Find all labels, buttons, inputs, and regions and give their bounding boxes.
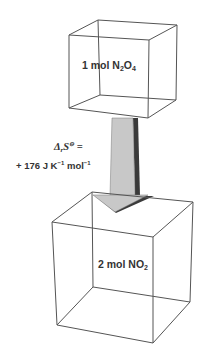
label-text: 2 mol NO — [98, 258, 144, 270]
delta-symbol: Δ — [54, 141, 61, 152]
label-text: O — [124, 59, 132, 71]
value-text: + 176 J K — [16, 160, 57, 171]
unit-text: mol — [64, 160, 84, 171]
down-arrow — [93, 118, 154, 213]
entropy-diagram — [0, 0, 201, 355]
label-text: 1 mol N — [82, 59, 120, 71]
subscript: 4 — [132, 65, 136, 72]
subscript: 2 — [144, 264, 148, 271]
entropy-symbol: ΔrS⊖ = — [54, 140, 83, 154]
equals-sign: = — [74, 141, 83, 152]
exponent: −1 — [84, 160, 91, 166]
entropy-value: + 176 J K−1 mol−1 — [16, 160, 91, 171]
top-box-label: 1 mol N2O4 — [82, 59, 136, 72]
bottom-box-label: 2 mol NO2 — [98, 258, 148, 271]
